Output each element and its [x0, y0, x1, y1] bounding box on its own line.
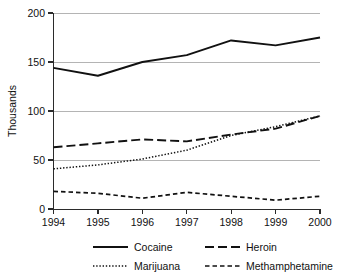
x-tick-label-1995: 1995: [86, 216, 110, 228]
legend-label-heroin: Heroin: [246, 241, 277, 253]
x-tick-label-1996: 1996: [131, 216, 155, 228]
y-tick-label-100: 100: [27, 105, 45, 117]
legend-item-marijuana[interactable]: Marijuana: [93, 260, 180, 272]
x-tick-label-1997: 1997: [175, 216, 199, 228]
chart-canvas: 200 150 100 50 0 Thousands 1994 1995 199…: [0, 0, 345, 277]
y-tick-labels: 200 150 100 50 0: [27, 7, 45, 215]
gridlines: [53, 13, 320, 160]
x-tick-label-1994: 1994: [42, 216, 66, 228]
chart-legend: Cocaine Heroin Marijuana Methamphetamine: [93, 241, 333, 272]
y-tick-label-150: 150: [27, 56, 45, 68]
legend-item-heroin[interactable]: Heroin: [205, 241, 277, 253]
legend-label-marijuana: Marijuana: [134, 260, 180, 272]
x-tick-label-2000: 2000: [308, 216, 332, 228]
y-tick-label-200: 200: [27, 7, 45, 19]
y-tick-marks: [48, 13, 53, 209]
legend-label-cocaine: Cocaine: [134, 241, 173, 253]
series-line-marijuana: [54, 116, 321, 169]
line-chart: 200 150 100 50 0 Thousands 1994 1995 199…: [0, 0, 345, 277]
series-line-methamphetamine: [54, 191, 321, 200]
x-tick-labels: 1994 1995 1996 1997 1998 1999 2000: [42, 216, 332, 228]
y-tick-label-0: 0: [39, 203, 45, 215]
legend-label-methamphetamine: Methamphetamine: [246, 260, 333, 272]
y-axis-title: Thousands: [6, 85, 18, 137]
x-tick-label-1998: 1998: [220, 216, 244, 228]
series-line-cocaine: [54, 38, 321, 76]
series-line-heroin: [54, 116, 321, 147]
legend-item-methamphetamine[interactable]: Methamphetamine: [205, 260, 333, 272]
y-tick-label-50: 50: [33, 154, 45, 166]
legend-item-cocaine[interactable]: Cocaine: [93, 241, 173, 253]
x-tick-label-1999: 1999: [264, 216, 288, 228]
